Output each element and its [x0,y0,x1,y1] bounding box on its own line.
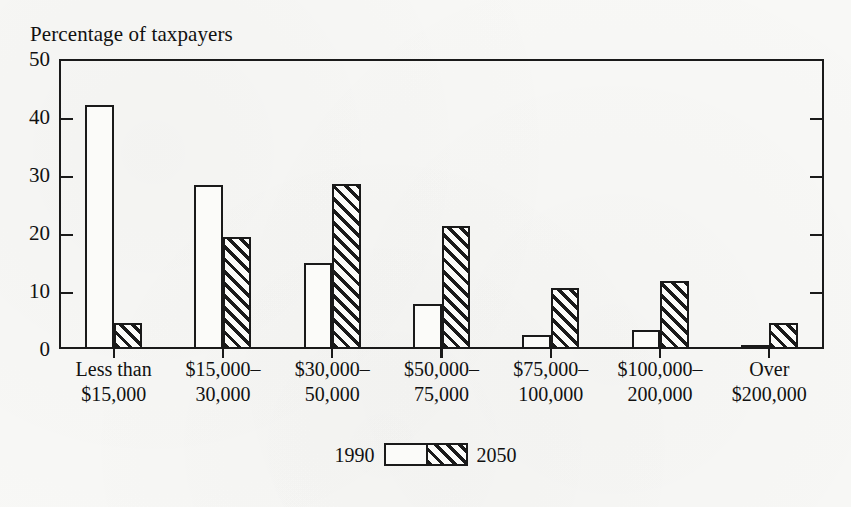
legend-swatch [384,443,468,466]
x-tick-label-line1: $30,000– [295,358,370,380]
bar-series-1990 [522,335,551,350]
bar-series-1990 [304,263,333,349]
x-tick-label-line2: 100,000 [513,382,588,407]
y-tick-label: 0 [40,339,51,360]
x-tick-label-line1: $50,000– [404,358,479,380]
legend-swatch-open [386,445,426,464]
x-tick-label: $15,000–30,000 [185,357,260,407]
x-tick-label-line2: $15,000 [76,382,152,407]
x-tick-label-line1: Less than [76,358,152,380]
x-tick-label-line1: Over [749,358,789,380]
x-tick-label: $30,000–50,000 [295,357,370,407]
chart-title: Percentage of taxpayers [30,22,233,46]
x-tick-label: Less than$15,000 [76,357,152,407]
x-tick-label-line1: $75,000– [513,358,588,380]
legend-label-1990: 1990 [335,445,375,465]
bar-series-2050 [769,323,798,349]
x-tick-label: $50,000–75,000 [404,357,479,407]
chart-page: Percentage of taxpayers 01020304050 Less… [0,0,851,507]
bar-series-2050 [442,226,471,349]
x-tick-label-line2: 200,000 [618,382,703,407]
bar-series-2050 [551,288,580,349]
bar-series-2050 [332,184,361,349]
x-tick-label: Over$200,000 [732,357,807,407]
y-tick-label: 10 [29,281,50,302]
y-tick-label: 40 [29,107,50,128]
bar-series-1990 [194,185,223,349]
bar-series-1990 [413,304,442,349]
y-axis-labels: 01020304050 [0,59,50,349]
bar-series-2050 [223,237,252,349]
legend-swatch-hatched [426,445,466,464]
x-tick-label-line2: 75,000 [404,382,479,407]
x-axis-labels: Less than$15,000$15,000–30,000$30,000–50… [59,357,824,419]
x-tick-label-line1: $15,000– [185,358,260,380]
y-tick-label: 20 [29,223,50,244]
x-tick-label-line2: $200,000 [732,382,807,407]
bar-series-1990 [632,330,661,349]
bar-series-2050 [660,281,689,349]
x-tick-label-line2: 30,000 [185,382,260,407]
x-tick-label: $100,000–200,000 [618,357,703,407]
bar-series-1990 [741,345,770,349]
y-tick-label: 50 [29,49,50,70]
bars-layer [59,59,824,349]
legend-label-2050: 2050 [477,445,517,465]
x-tick-label: $75,000–100,000 [513,357,588,407]
x-tick-label-line2: 50,000 [295,382,370,407]
chart-legend: 1990 2050 [0,443,851,466]
bar-series-1990 [85,105,114,349]
bar-series-2050 [114,323,143,349]
x-tick-label-line1: $100,000– [618,358,703,380]
y-tick-label: 30 [29,165,50,186]
